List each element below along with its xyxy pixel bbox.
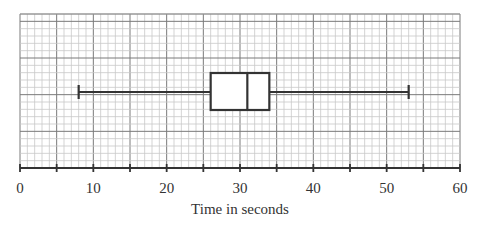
x-tick-label: 30 — [233, 180, 248, 196]
x-tick-label: 20 — [159, 180, 174, 196]
x-tick-label: 40 — [306, 180, 321, 196]
x-axis: 0102030405060 — [16, 164, 467, 196]
x-tick-label: 50 — [379, 180, 394, 196]
x-axis-title: Time in seconds — [191, 201, 289, 217]
box-and-whisker — [79, 73, 409, 110]
x-tick-label: 10 — [86, 180, 101, 196]
box-plot-chart: 0102030405060 Time in seconds — [0, 0, 483, 226]
x-tick-label: 60 — [453, 180, 468, 196]
interquartile-box — [211, 73, 270, 110]
x-tick-label: 0 — [16, 180, 24, 196]
